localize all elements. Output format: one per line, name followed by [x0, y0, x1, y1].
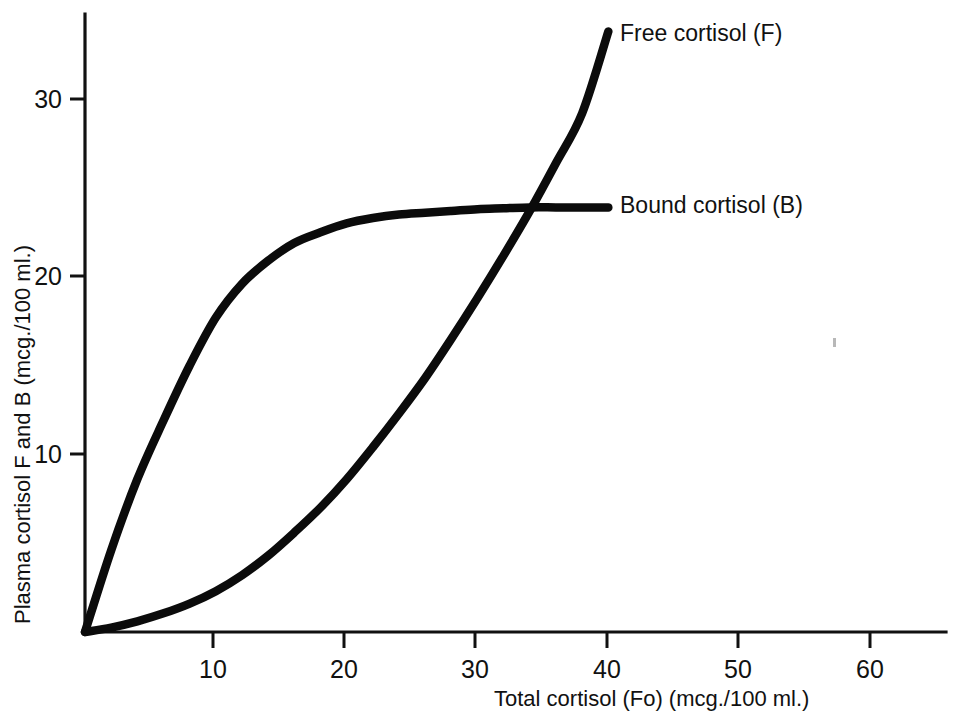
x-tick-label-60: 60: [856, 655, 884, 683]
chart-figure: 30 20 10 10 20 30 40 50 60 Free cortisol…: [0, 0, 965, 716]
y-tick-label-30: 30: [34, 85, 62, 113]
y-tick-group: [70, 99, 85, 454]
y-tick-label-10: 10: [34, 440, 62, 468]
bound-cortisol-curve: [85, 207, 608, 632]
x-tick-label-30: 30: [461, 655, 489, 683]
x-tick-label-40: 40: [593, 655, 621, 683]
y-axis-title: Plasma cortisol F and B (mcg./100 ml.): [10, 245, 35, 624]
bound-cortisol-label: Bound cortisol (B): [620, 192, 803, 218]
x-tick-label-50: 50: [724, 655, 752, 683]
x-tick-label-10: 10: [199, 655, 227, 683]
free-cortisol-curve: [85, 31, 608, 632]
x-tick-group: [213, 632, 870, 648]
free-cortisol-label: Free cortisol (F): [620, 20, 782, 46]
x-tick-label-20: 20: [330, 655, 358, 683]
y-tick-label-20: 20: [34, 262, 62, 290]
x-axis-title: Total cortisol (Fo) (mcg./100 ml.): [494, 686, 809, 711]
plot-area: 30 20 10 10 20 30 40 50 60 Free cortisol…: [0, 0, 965, 716]
scan-speck: [833, 338, 836, 347]
